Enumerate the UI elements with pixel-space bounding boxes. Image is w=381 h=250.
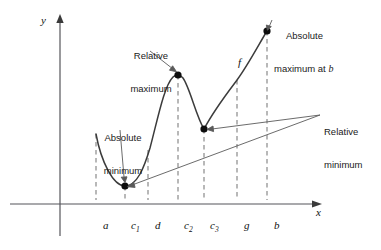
- tick-label-a-text: a: [103, 219, 109, 231]
- y-axis-arrowhead: [56, 14, 63, 23]
- tick-label-c1-sub: 1: [136, 225, 140, 234]
- annotation-relative-maximum-line2: maximum: [120, 83, 182, 94]
- leader-relative-minimum-c1: [132, 115, 320, 185]
- annotation-absolute-minimum-line2: minimum: [94, 165, 152, 176]
- tick-label-g: g: [233, 207, 250, 231]
- tick-label-d-text: d: [155, 219, 161, 231]
- y-axis-label: y: [41, 14, 46, 26]
- arrowhead-absolute-maximum: [266, 25, 271, 30]
- tick-label-d: d: [144, 207, 161, 231]
- figure-canvas: y x f a c1 d c2 c3 g b Relative maximum …: [0, 0, 381, 250]
- tick-label-c2: c2: [173, 207, 193, 234]
- tick-label-b-text: b: [274, 219, 280, 231]
- leader-relative-minimum-c3: [212, 115, 320, 129]
- annotation-absolute-maximum-line2: maximum at b: [274, 63, 378, 74]
- annotation-absolute-minimum-line1: Absolute: [94, 132, 152, 143]
- annotation-relative-maximum: Relative maximum: [120, 28, 182, 116]
- relative-minimum-point: [200, 125, 207, 132]
- tick-label-c3: c3: [199, 207, 219, 234]
- annotation-relative-maximum-line1: Relative: [120, 50, 182, 61]
- arrowhead-relative-minimum-c3: [207, 126, 214, 132]
- tick-label-b: b: [263, 207, 280, 231]
- annotation-absolute-maximum-line1: Absolute: [274, 30, 378, 41]
- tick-label-g-text: g: [244, 219, 250, 231]
- annotation-absolute-maximum-line2-text: maximum at: [274, 63, 328, 74]
- annotation-absolute-maximum-variable: b: [328, 63, 333, 74]
- tick-label-c3-sub: 3: [215, 225, 219, 234]
- tick-label-c1: c1: [120, 207, 140, 234]
- annotation-relative-minimum-line1: Relative: [324, 126, 380, 137]
- x-axis-label: x: [316, 206, 321, 218]
- tick-label-c2-sub: 2: [189, 225, 193, 234]
- annotation-relative-minimum: Relative minimum: [324, 104, 380, 192]
- annotation-absolute-maximum: Absolute maximum at b: [274, 8, 378, 96]
- curve-label-f: f: [238, 56, 241, 68]
- tick-label-a: a: [92, 207, 109, 231]
- annotation-relative-minimum-line2: minimum: [324, 159, 380, 170]
- annotation-absolute-minimum: Absolute minimum: [94, 110, 152, 198]
